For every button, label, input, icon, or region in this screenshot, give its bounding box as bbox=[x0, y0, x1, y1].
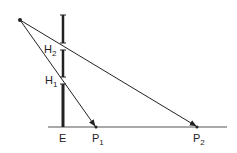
label-p2: P2 bbox=[193, 132, 205, 147]
ray-to-p2 bbox=[20, 20, 196, 126]
ray-to-p1 bbox=[20, 20, 95, 126]
label-p1: P1 bbox=[92, 132, 104, 147]
label-h2: H2 bbox=[44, 43, 57, 58]
label-h1: H1 bbox=[45, 74, 58, 89]
label-e: E bbox=[59, 132, 66, 144]
vertical-bar bbox=[60, 15, 66, 127]
diagram: H2 H1 E P1 P2 bbox=[0, 0, 237, 153]
point-p1 bbox=[95, 126, 98, 129]
point-p2 bbox=[196, 126, 199, 129]
